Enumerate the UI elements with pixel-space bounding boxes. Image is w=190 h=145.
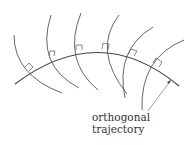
family-curve-2 — [47, 15, 79, 88]
right-angle-marker-4 — [102, 43, 109, 50]
trajectory-label-line1: orthogonal — [92, 111, 150, 123]
family-curve-6 — [142, 40, 184, 110]
trajectory-label-line2: trajectory — [92, 123, 150, 135]
right-angle-marker-3 — [76, 45, 82, 50]
right-angle-marker-5 — [128, 49, 137, 56]
trajectory-label: orthogonal trajectory — [92, 111, 150, 135]
arrowhead-icon — [167, 80, 171, 84]
family-curve-3 — [74, 13, 98, 90]
family-curve-5 — [123, 27, 153, 98]
right-angle-marker-2 — [49, 51, 55, 56]
family-curve-1 — [14, 35, 62, 93]
label-pointer-line — [148, 80, 171, 111]
orthogonal-trajectory-curve — [15, 52, 179, 86]
